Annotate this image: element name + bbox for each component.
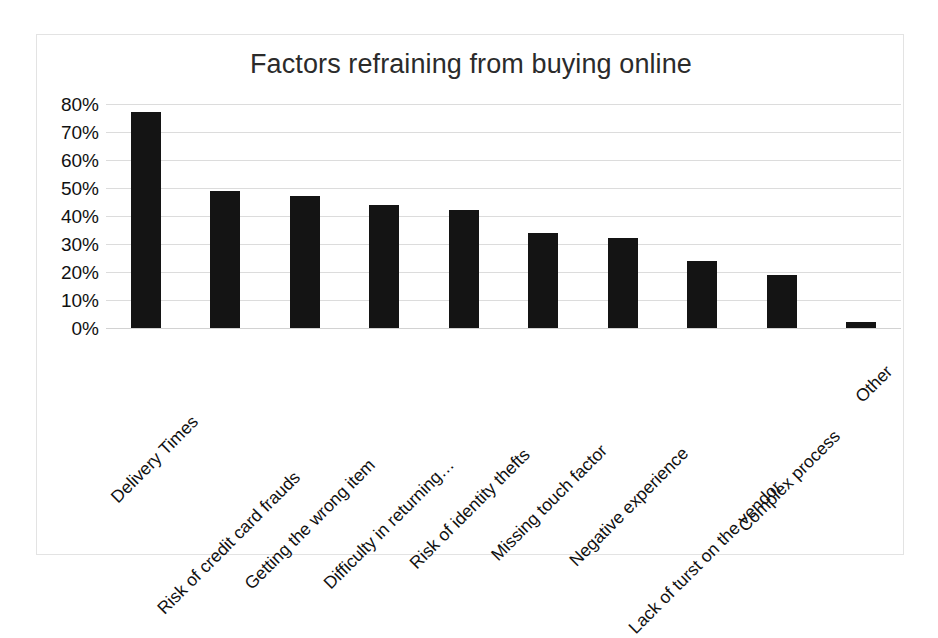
x-tick-label-text: Risk of identity thefts [406, 445, 533, 572]
bar [290, 196, 320, 328]
y-tick-label: 80% [37, 95, 99, 114]
chart-title: Factors refraining from buying online [37, 49, 905, 80]
y-tick-label: 50% [37, 179, 99, 198]
x-tick-label: Getting the wrong item [365, 331, 502, 468]
bar [449, 210, 479, 328]
x-tick-label: Difficulty in returning… [445, 331, 582, 468]
y-tick-label: 20% [37, 263, 99, 282]
bar-series [106, 104, 901, 328]
chart-frame: Factors refraining from buying online 80… [36, 34, 904, 555]
x-tick-label: Delivery Times [188, 331, 282, 425]
gridline-0pct [106, 328, 901, 329]
bar [369, 205, 399, 328]
bar [131, 112, 161, 328]
y-tick-label: 40% [37, 207, 99, 226]
bar [846, 322, 876, 328]
y-tick-label: 60% [37, 151, 99, 170]
y-tick-label: 30% [37, 235, 99, 254]
x-axis-category-labels: Delivery TimesRisk of credit card frauds… [106, 331, 901, 531]
bar [608, 238, 638, 328]
bar [767, 275, 797, 328]
y-tick-label: 70% [37, 123, 99, 142]
x-tick-label: Risk of identity thefts [520, 331, 647, 458]
y-tick-label: 0% [37, 319, 99, 338]
y-tick-label: 10% [37, 291, 99, 310]
x-tick-label-text: Difficulty in returning… [320, 455, 457, 592]
x-tick-label-text: Complex process [735, 427, 844, 536]
x-tick-label-text: Delivery Times [107, 412, 201, 506]
y-axis-tick-labels: 80%70%60%50%40%30%20%10%0% [37, 104, 99, 328]
bar [210, 191, 240, 328]
bar [687, 261, 717, 328]
bar [528, 233, 558, 328]
x-tick-label-text: Getting the wrong item [241, 455, 378, 592]
